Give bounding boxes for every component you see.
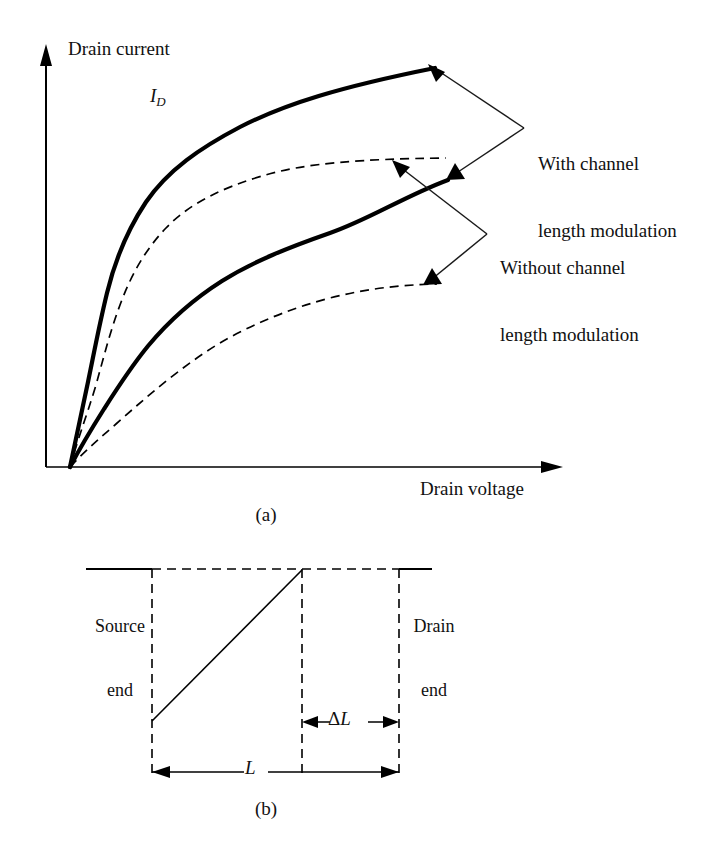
y-axis-symbol-subscript: D [156, 94, 165, 109]
y-axis-label: Drain current [68, 38, 170, 60]
annotation-with-line1: With channel [538, 153, 677, 175]
delta-l-base: L [340, 708, 351, 729]
source-end-label-line2: end [84, 680, 156, 701]
drain-end-label-line1: Drain [398, 616, 470, 637]
channel-length-label: L [245, 757, 256, 779]
x-axis-label: Drain voltage [420, 478, 524, 500]
delta-l-label: ΔL [328, 708, 351, 730]
drain-end-label: Drain end [398, 574, 470, 744]
annotation-with-leaders [428, 64, 524, 180]
figure-root: Drain current ID Drain voltage With chan… [0, 0, 718, 864]
annotation-without-line2: length modulation [500, 324, 639, 346]
annotation-without-modulation: Without channel length modulation [500, 212, 639, 391]
curve-lower-with-modulation [70, 180, 448, 467]
annotation-without-line1: Without channel [500, 257, 639, 279]
annotation-without-leaders [392, 160, 487, 285]
panel-a-graphics [40, 44, 563, 473]
drain-end-label-line2: end [398, 680, 470, 701]
x-axis [46, 461, 563, 473]
curve-upper-with-modulation [70, 68, 435, 467]
source-end-label-line1: Source [84, 616, 156, 637]
panel-b-caption: (b) [236, 798, 296, 820]
y-axis [40, 44, 52, 467]
source-end-label: Source end [84, 574, 156, 744]
channel-boundary-line [152, 570, 302, 721]
panel-a-caption: (a) [236, 504, 296, 526]
y-axis-symbol: ID [131, 63, 166, 132]
length-l-dimension [152, 766, 399, 778]
delta-symbol: Δ [328, 708, 340, 729]
